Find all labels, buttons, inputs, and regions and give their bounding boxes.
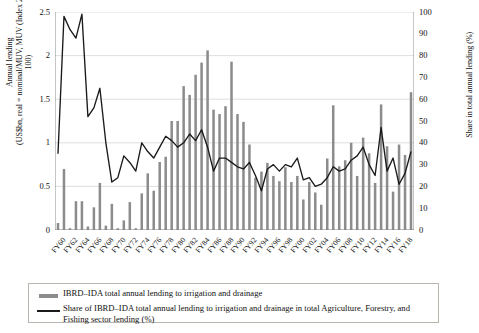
- y-axis-right-tick-label: 60: [419, 94, 445, 104]
- y-axis-right-tick-label: 30: [419, 159, 445, 169]
- bar: [129, 202, 132, 230]
- bar: [182, 86, 185, 230]
- bar: [99, 183, 102, 230]
- legend-item-bars: IBRD–IDA total annual lending to irrigat…: [37, 288, 432, 301]
- y-axis-right-tick-label: 20: [419, 181, 445, 191]
- bar: [206, 50, 209, 230]
- bar: [404, 155, 407, 230]
- y-axis-right-tick-label: 80: [419, 50, 445, 60]
- legend-label-line: Share of IBRD–IDA total annual lending t…: [63, 303, 432, 324]
- bar: [146, 173, 149, 230]
- bar: [302, 199, 305, 230]
- bar: [278, 181, 281, 230]
- y-axis-right-tick-label: 10: [419, 203, 445, 213]
- bar: [344, 160, 347, 230]
- bar: [314, 193, 317, 231]
- legend-item-line: Share of IBRD–IDA total annual lending t…: [37, 303, 432, 324]
- y-axis-right-tick-label: 0: [419, 225, 445, 235]
- bar: [296, 176, 299, 230]
- y-axis-right-tick-label: 70: [419, 72, 445, 82]
- bar: [320, 205, 323, 230]
- share-line: [58, 14, 411, 191]
- bar: [170, 121, 173, 230]
- bar: [87, 227, 90, 230]
- y-axis-left-title-line2: (US$bn, real = nominal/MUV, MUV (Index 2…: [14, 0, 33, 147]
- bar: [188, 95, 191, 230]
- bar: [326, 159, 329, 231]
- bar: [398, 145, 401, 230]
- bar: [338, 166, 341, 230]
- legend-swatch-bar-icon: [37, 291, 63, 301]
- bar: [284, 167, 287, 230]
- bar: [236, 114, 239, 230]
- chart-figure: Annual lending (US$bn, real = nominal/MU…: [0, 0, 479, 333]
- bar: [356, 176, 359, 230]
- bar: [152, 191, 155, 230]
- bar: [248, 145, 251, 230]
- bar: [158, 162, 161, 230]
- bar: [308, 182, 311, 230]
- plot-area: [55, 12, 414, 230]
- y-axis-left-tick-label: 1.5: [24, 94, 50, 104]
- y-axis-right-title: Share in total annual lending (%): [465, 0, 475, 170]
- bar: [374, 183, 377, 230]
- y-axis-right-tick-label: 50: [419, 116, 445, 126]
- bar: [230, 62, 233, 230]
- chart-legend: IBRD–IDA total annual lending to irrigat…: [28, 283, 439, 323]
- bar: [242, 122, 245, 230]
- bar: [350, 143, 353, 230]
- bar: [176, 121, 179, 230]
- bar: [63, 169, 66, 230]
- bar: [224, 106, 227, 230]
- y-axis-left-title: Annual lending (US$bn, real = nominal/MU…: [5, 0, 34, 147]
- y-axis-left-tick-label: 2: [24, 50, 50, 60]
- bar: [105, 226, 108, 230]
- bar: [380, 104, 383, 230]
- bar: [218, 114, 221, 230]
- bar: [111, 204, 114, 230]
- bar: [75, 201, 78, 230]
- bar: [81, 201, 84, 230]
- y-axis-right-tick-label: 90: [419, 28, 445, 38]
- legend-label-bars: IBRD–IDA total annual lending to irrigat…: [63, 288, 262, 299]
- y-axis-left-tick-label: 0: [24, 225, 50, 235]
- bar: [164, 157, 167, 230]
- bar: [272, 176, 275, 230]
- bar: [410, 92, 413, 230]
- bar: [93, 207, 96, 230]
- bar: [254, 178, 257, 230]
- legend-swatch-line-icon: [37, 306, 63, 316]
- y-axis-left-tick-label: 0.5: [24, 181, 50, 191]
- bar: [392, 192, 395, 230]
- y-axis-right-tick-label: 100: [419, 7, 445, 17]
- y-axis-right-tick-label: 40: [419, 137, 445, 147]
- y-axis-left-tick-label: 1: [24, 137, 50, 147]
- bar: [57, 223, 60, 230]
- bar: [141, 193, 144, 230]
- plot-svg: [55, 12, 414, 230]
- bar: [260, 172, 263, 230]
- y-axis-left-title-line1: Annual lending: [5, 0, 15, 147]
- bar: [200, 63, 203, 230]
- y-axis-left-tick-label: 2.5: [24, 7, 50, 17]
- bar: [123, 220, 126, 230]
- bar: [386, 146, 389, 230]
- bar: [194, 75, 197, 230]
- bar: [290, 182, 293, 230]
